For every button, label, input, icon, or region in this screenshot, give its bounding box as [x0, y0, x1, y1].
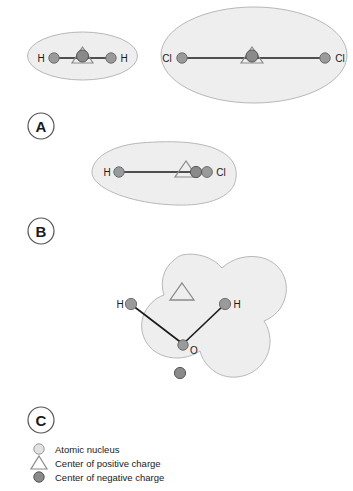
electron-cloud-water — [142, 254, 287, 377]
panel-label-a-text: A — [36, 118, 47, 135]
panel-label-b-text: B — [36, 223, 47, 240]
atom-label-h-left: H — [37, 53, 44, 64]
panel-label-c-text: C — [36, 412, 47, 429]
nucleus-o-water — [178, 340, 188, 350]
nucleus-cl-right — [320, 53, 330, 63]
atom-label-h-hcl: H — [103, 167, 110, 178]
atom-label-o-water: O — [190, 345, 198, 356]
molecule-hydrogen-chloride: H Cl — [92, 142, 236, 205]
legend-label-positive: Center of positive charge — [55, 458, 161, 469]
atom-label-h-right: H — [120, 53, 127, 64]
nucleus-h-right — [106, 53, 116, 63]
nucleus-h-left — [49, 53, 59, 63]
legend-item-negative: Center of negative charge — [34, 472, 165, 483]
negative-center-chlorine — [246, 50, 258, 62]
nucleus-cl-hcl — [202, 167, 213, 178]
panel-label-b: B — [28, 218, 54, 244]
molecule-chlorine: Cl Cl — [161, 7, 347, 103]
nucleus-cl-left — [177, 53, 187, 63]
molecular-polarity-diagram: H H Cl Cl A H Cl — [0, 0, 353, 491]
panel-b: H Cl B — [28, 142, 236, 244]
legend-item-positive: Center of positive charge — [31, 456, 161, 469]
negative-circle-icon — [34, 472, 44, 482]
nucleus-icon — [34, 444, 44, 454]
negative-center-water — [174, 367, 185, 378]
molecule-water: H H O — [116, 254, 286, 378]
atom-label-h-water-right: H — [233, 299, 240, 310]
molecule-hydrogen: H H — [28, 32, 138, 80]
panel-label-a: A — [28, 113, 54, 139]
nucleus-h-hcl — [114, 167, 124, 177]
legend-item-nucleus: Atomic nucleus — [34, 444, 120, 455]
legend-label-nucleus: Atomic nucleus — [55, 444, 120, 455]
legend: Atomic nucleus Center of positive charge… — [31, 444, 164, 483]
panel-label-c: C — [28, 407, 54, 433]
panel-c: H H O C — [28, 254, 286, 433]
negative-center-hydrogen-chloride — [190, 166, 201, 177]
negative-center-hydrogen — [77, 50, 89, 62]
atom-label-h-water-left: H — [116, 299, 123, 310]
nucleus-h-water-right — [219, 298, 230, 309]
legend-label-negative: Center of negative charge — [55, 472, 164, 483]
atom-label-cl-hcl: Cl — [216, 167, 225, 178]
positive-triangle-icon — [31, 456, 47, 469]
panel-a: H H Cl Cl A — [28, 7, 348, 139]
atom-label-cl-right: Cl — [335, 53, 344, 64]
nucleus-h-water-left — [125, 298, 136, 309]
atom-label-cl-left: Cl — [162, 53, 171, 64]
